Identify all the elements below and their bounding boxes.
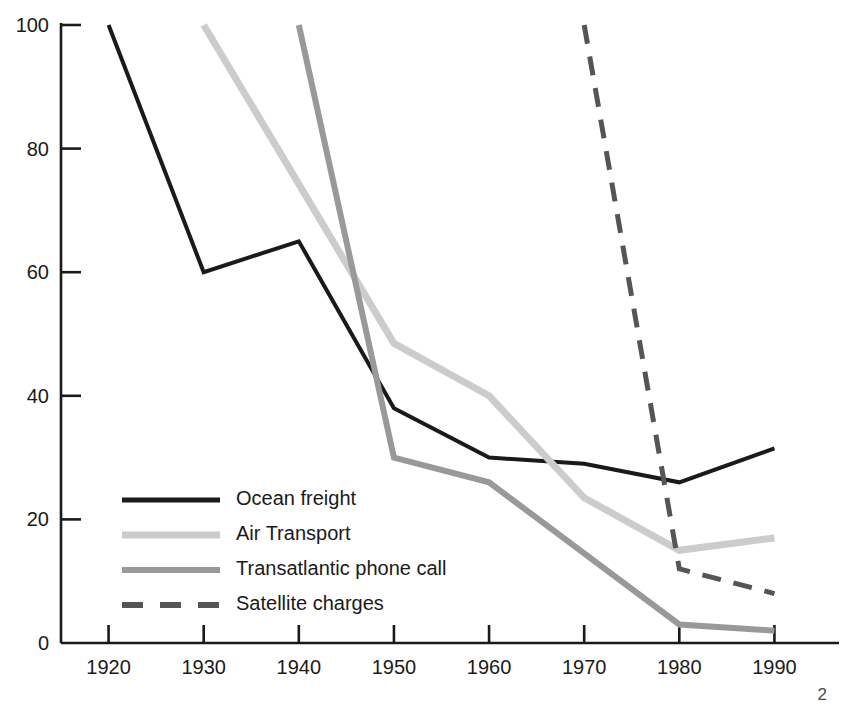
legend-label: Ocean freight: [236, 487, 357, 509]
x-axis-tick-labels: 19201930194019501960197019801990: [86, 656, 796, 678]
chart-series-layer: [109, 25, 775, 631]
chart-legend: Ocean freightAir TransportTransatlantic …: [122, 487, 447, 614]
y-axis-tick-label: 20: [27, 508, 49, 530]
series-line-satellite-charges: [584, 25, 774, 594]
x-axis-tick-label: 1970: [562, 656, 607, 678]
series-line-air-transport: [204, 25, 775, 550]
legend-label: Air Transport: [236, 522, 351, 544]
page-number: 2: [818, 685, 827, 705]
x-axis-tick-label: 1920: [86, 656, 131, 678]
y-axis-tick-label: 80: [27, 138, 49, 160]
x-axis-tick-label: 1990: [752, 656, 797, 678]
series-line-ocean-freight: [109, 25, 775, 482]
series-line-transatlantic-phone-call: [299, 25, 775, 631]
legend-item-satellite-charges[interactable]: Satellite charges: [122, 592, 384, 614]
y-axis-tick-label: 40: [27, 385, 49, 407]
x-axis-tick-label: 1950: [372, 656, 417, 678]
y-axis-tick-label: 60: [27, 261, 49, 283]
chart-container: 020406080100 192019301940195019601970198…: [0, 0, 841, 713]
legend-item-air-transport[interactable]: Air Transport: [122, 522, 351, 544]
chart-axes: [61, 23, 839, 643]
y-axis-tick-labels: 020406080100: [16, 14, 49, 654]
legend-item-ocean-freight[interactable]: Ocean freight: [122, 487, 357, 509]
x-axis-tick-label: 1960: [467, 656, 512, 678]
x-axis-tick-label: 1940: [277, 656, 322, 678]
x-axis-tick-label: 1930: [181, 656, 226, 678]
legend-label: Transatlantic phone call: [236, 557, 447, 579]
y-axis-tick-label: 0: [38, 632, 49, 654]
line-chart: 020406080100 192019301940195019601970198…: [0, 0, 841, 713]
x-axis-tick-label: 1980: [657, 656, 702, 678]
legend-label: Satellite charges: [236, 592, 384, 614]
y-axis-tick-label: 100: [16, 14, 49, 36]
legend-item-transatlantic-phone-call[interactable]: Transatlantic phone call: [122, 557, 447, 579]
